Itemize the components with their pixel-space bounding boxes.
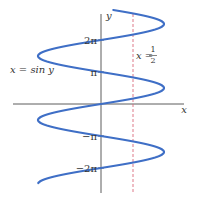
y-axis-label: y (105, 10, 112, 21)
sine-diagram: x y 2π π −π −2π x = sin y x = 1 2 (0, 0, 197, 206)
line-label-numerator: 1 (150, 45, 155, 54)
line-label-denominator: 2 (150, 56, 155, 65)
tick-label-2pi: 2π (84, 35, 97, 46)
tick-label-neg-pi: −π (82, 131, 97, 142)
curve-label: x = sin y (10, 64, 54, 75)
x-axis-label: x (181, 104, 187, 115)
tick-label-neg-2pi: −2π (76, 163, 98, 174)
tick-label-pi: π (90, 67, 97, 78)
line-label: x = 1 2 (136, 45, 157, 65)
